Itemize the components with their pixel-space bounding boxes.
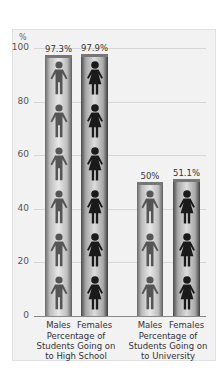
female-figure-icon [177, 233, 197, 267]
value-label: 50% [130, 171, 170, 181]
female-figure-icon [85, 147, 105, 181]
female-figure-icon [85, 104, 105, 138]
female-figure-icon [177, 276, 197, 310]
bar-males-high-school [45, 55, 72, 316]
male-figure-icon [49, 233, 69, 267]
x-axis-line [34, 316, 206, 317]
male-figure-icon [49, 190, 69, 224]
female-figure-icon [177, 190, 197, 224]
group-caption: Percentage ofStudents Going onto High Sc… [26, 331, 126, 361]
y-tick-label: 0 [7, 310, 29, 320]
y-tick-label: 20 [7, 256, 29, 266]
bar-cap [45, 55, 72, 58]
female-figure-icon [85, 190, 105, 224]
bar-females-university [173, 179, 200, 316]
female-figure-icon [85, 61, 105, 95]
x-category-label: Females [167, 320, 207, 330]
male-figure-icon [140, 276, 160, 310]
y-tick-label: 40 [7, 203, 29, 213]
value-label: 97.9% [75, 43, 115, 53]
value-label: 97.3% [39, 44, 79, 54]
female-figure-icon [85, 276, 105, 310]
male-figure-icon [140, 190, 160, 224]
bar-cap [137, 182, 163, 185]
y-tick-label: 100 [7, 42, 29, 52]
female-figure-icon [85, 233, 105, 267]
bar-cap [81, 54, 108, 57]
x-category-label: Males [130, 320, 170, 330]
y-tick-label: 60 [7, 149, 29, 159]
male-figure-icon [49, 276, 69, 310]
x-category-label: Males [39, 320, 79, 330]
bar-females-high-school [81, 54, 108, 316]
y-axis-unit: % [19, 33, 27, 42]
x-category-label: Females [75, 320, 115, 330]
y-tick-label: 80 [7, 96, 29, 106]
value-label: 51.1% [167, 168, 207, 178]
male-figure-icon [49, 147, 69, 181]
male-figure-icon [140, 233, 160, 267]
male-figure-icon [49, 61, 69, 95]
male-figure-icon [49, 104, 69, 138]
bar-males-university [137, 182, 163, 316]
group-caption: Percentage ofStudents Going onto Univers… [118, 331, 218, 361]
bar-cap [173, 179, 200, 182]
